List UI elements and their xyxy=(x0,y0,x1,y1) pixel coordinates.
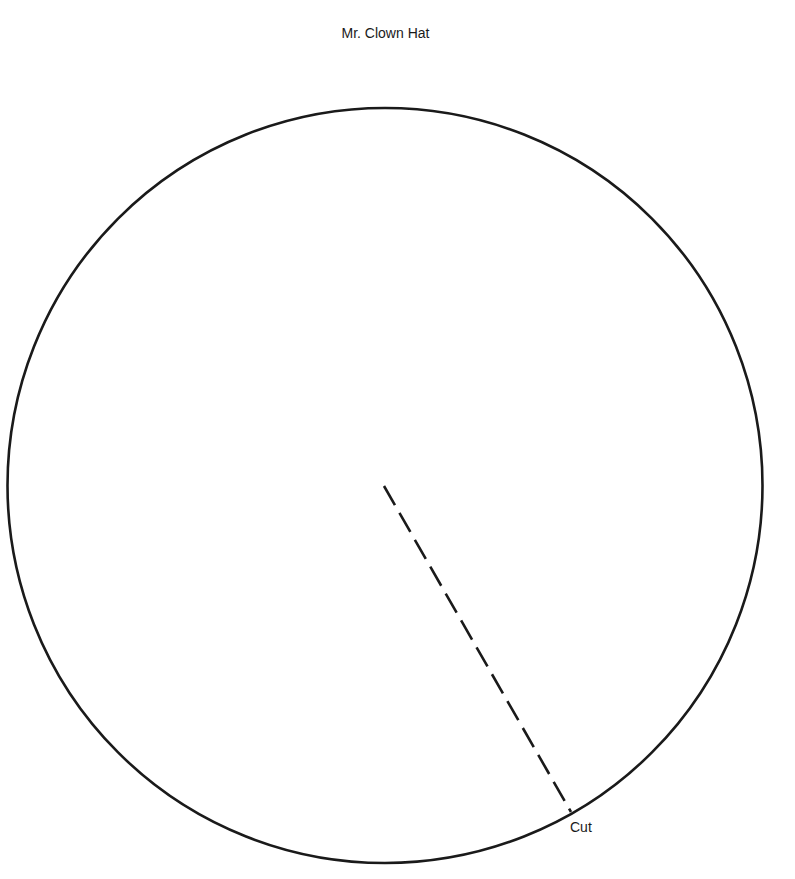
cut-line xyxy=(384,486,571,812)
cut-label: Cut xyxy=(570,819,592,835)
clown-hat-template xyxy=(0,0,795,879)
